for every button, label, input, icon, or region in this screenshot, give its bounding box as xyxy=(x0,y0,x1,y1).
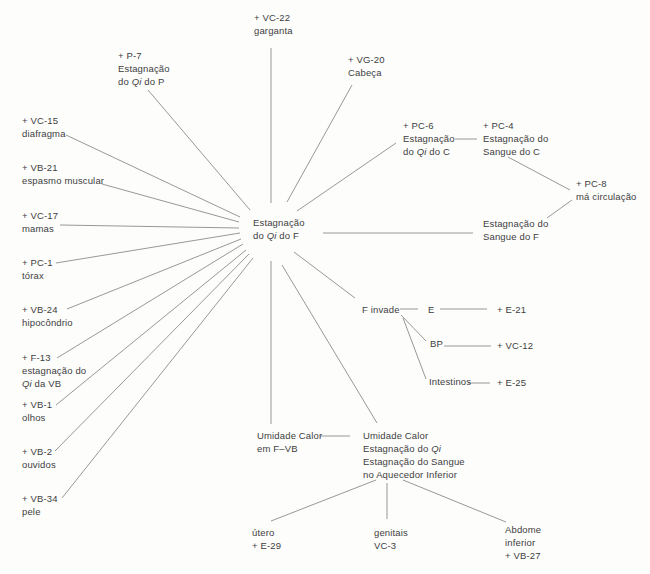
connector-line-vb34-hub xyxy=(62,258,253,498)
node-hub-label: do Qi do F xyxy=(253,230,305,243)
node-pc6-label: do Qi do C xyxy=(403,146,455,159)
node-intestinos: Intestinos xyxy=(429,376,471,389)
node-vb2-label: ouvidos xyxy=(22,459,56,472)
node-genitais-label: genitais xyxy=(374,527,408,540)
node-p7-label: do Qi do P xyxy=(118,76,170,89)
connector-line-p7-hub xyxy=(148,90,250,210)
node-genitais: genitaisVC-3 xyxy=(374,527,408,553)
node-vc12-label: + VC-12 xyxy=(497,340,533,353)
node-f13-label: + F-13 xyxy=(22,352,86,365)
node-utero-label: + E-29 xyxy=(252,540,281,553)
node-vc17-label: mamas xyxy=(22,223,58,236)
node-vb2: + VB-2ouvidos xyxy=(22,446,56,472)
node-hub: Estagnaçãodo Qi do F xyxy=(253,217,305,243)
node-pc6-label: + PC-6 xyxy=(403,120,455,133)
diagram-canvas: + VC-22garganta+ P-7Estagnaçãodo Qi do P… xyxy=(0,0,650,574)
node-umidade-inferior-label: Estagnação do Qi xyxy=(363,443,465,456)
node-utero-label: útero xyxy=(252,527,281,540)
node-vb1-label: olhos xyxy=(22,412,52,425)
node-vb34: + VB-34pele xyxy=(22,493,58,519)
node-pc6: + PC-6Estagnaçãodo Qi do C xyxy=(403,120,455,159)
node-vb34-label: + VB-34 xyxy=(22,493,58,506)
node-f-invade-label: F invade xyxy=(362,304,400,317)
node-vc15: + VC-15diafragma xyxy=(22,115,66,141)
node-vg20-label: Cabeça xyxy=(348,67,385,80)
node-vc22-label: + VC-22 xyxy=(254,12,293,25)
node-e: E xyxy=(428,304,435,317)
node-umidade-fvb-label: Umidade Calor xyxy=(257,430,322,443)
node-vb34-label: pele xyxy=(22,506,58,519)
node-umidade-fvb-label: em F–VB xyxy=(257,443,322,456)
node-vb24-label: + VB-24 xyxy=(22,304,73,317)
connector-line-hub-umidade-inferior xyxy=(282,265,377,423)
node-umidade-fvb: Umidade Calorem F–VB xyxy=(257,430,322,456)
connector-line-umidade-inferior-abdome xyxy=(403,480,506,522)
connector-line-umidade-inferior-utero xyxy=(271,480,376,521)
node-pc8: + PC-8má circulação xyxy=(576,178,637,204)
node-e25: + E-25 xyxy=(497,377,526,390)
node-utero: útero+ E-29 xyxy=(252,527,281,553)
node-sangue-f-label: Sangue do F xyxy=(483,231,548,244)
node-vc22-label: garganta xyxy=(254,25,293,38)
node-vc17: + VC-17mamas xyxy=(22,210,58,236)
node-hub-label: Estagnação xyxy=(253,217,305,230)
node-f-invade: F invade xyxy=(362,304,400,317)
node-vg20-label: + VG-20 xyxy=(348,54,385,67)
node-genitais-label: VC-3 xyxy=(374,540,408,553)
node-vg20: + VG-20Cabeça xyxy=(348,54,385,80)
node-pc4-label: + PC-4 xyxy=(483,120,548,133)
node-umidade-inferior-label: Estagnação do Sangue xyxy=(363,456,465,469)
node-pc4: + PC-4Estagnação doSangue do C xyxy=(483,120,548,159)
node-vb24: + VB-24hipocôndrio xyxy=(22,304,73,330)
node-vc17-label: + VC-17 xyxy=(22,210,58,223)
connector-line-f-invade-intestinos xyxy=(403,318,426,379)
node-pc1: + PC-1tórax xyxy=(22,257,53,283)
node-bp: BP xyxy=(430,338,443,351)
node-e-label: E xyxy=(428,304,435,317)
node-e25-label: + E-25 xyxy=(497,377,526,390)
node-abdome: Abdomeinferior+ VB-27 xyxy=(505,524,541,563)
node-umidade-inferior-label: no Aquecedor Inferior xyxy=(363,469,465,482)
node-vc22: + VC-22garganta xyxy=(254,12,293,38)
node-f13: + F-13estagnação doQi da VB xyxy=(22,352,86,391)
node-pc4-label: Estagnação do xyxy=(483,133,548,146)
node-vb21: + VB-21espasmo muscular xyxy=(22,162,104,188)
connector-line-pc1-hub xyxy=(56,233,240,263)
node-pc1-label: + PC-1 xyxy=(22,257,53,270)
node-sangue-f-label: Estagnação do xyxy=(483,218,548,231)
connector-line-vb21-hub xyxy=(102,184,239,222)
node-pc4-label: Sangue do C xyxy=(483,146,548,159)
node-f13-label: estagnação do xyxy=(22,365,86,378)
connector-line-hub-f-invade xyxy=(294,252,355,298)
node-abdome-label: inferior xyxy=(505,537,541,550)
node-p7-label: Estagnação xyxy=(118,63,170,76)
connector-line-vc17-hub xyxy=(60,225,239,228)
node-vc12: + VC-12 xyxy=(497,340,533,353)
node-vc15-label: diafragma xyxy=(22,128,66,141)
connector-line-pc6-hub xyxy=(297,143,396,211)
node-umidade-inferior: Umidade CalorEstagnação do QiEstagnação … xyxy=(363,430,465,482)
node-abdome-label: + VB-27 xyxy=(505,550,541,563)
connector-line-pc8-sangue-f xyxy=(547,200,572,218)
node-p7-label: + P-7 xyxy=(118,50,170,63)
node-vc15-label: + VC-15 xyxy=(22,115,66,128)
node-e21-label: + E-21 xyxy=(497,304,526,317)
node-pc6-label: Estagnação xyxy=(403,133,455,146)
node-vb1-label: + VB-1 xyxy=(22,399,52,412)
node-bp-label: BP xyxy=(430,338,443,351)
node-e21: + E-21 xyxy=(497,304,526,317)
connector-line-vg20-hub xyxy=(287,85,352,202)
node-vb2-label: + VB-2 xyxy=(22,446,56,459)
connector-line-f-invade-bp xyxy=(401,315,426,341)
node-vb1: + VB-1olhos xyxy=(22,399,52,425)
node-sangue-f: Estagnação doSangue do F xyxy=(483,218,548,244)
node-intestinos-label: Intestinos xyxy=(429,376,471,389)
node-vb21-label: espasmo muscular xyxy=(22,175,104,188)
node-p7: + P-7Estagnaçãodo Qi do P xyxy=(118,50,170,89)
node-f13-label: Qi da VB xyxy=(22,378,86,391)
connector-line-pc4-pc8 xyxy=(508,157,570,190)
node-abdome-label: Abdome xyxy=(505,524,541,537)
connector-lines xyxy=(0,0,650,574)
node-pc8-label: má circulação xyxy=(576,191,637,204)
node-umidade-inferior-label: Umidade Calor xyxy=(363,430,465,443)
